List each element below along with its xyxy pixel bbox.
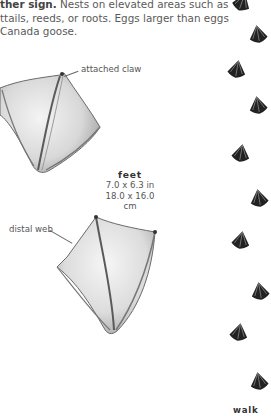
paragraph-line-3: Canada goose. xyxy=(0,25,210,39)
walk-label: walk xyxy=(233,405,259,415)
feet-caption: feet 7.0 x 6.3 in 18.0 x 16.0 cm xyxy=(100,169,160,212)
paragraph-line-2: ttails, reeds, or roots. Eggs larger tha… xyxy=(0,12,210,26)
footprint-track-icon xyxy=(229,228,252,251)
footprint-track-icon xyxy=(247,369,270,392)
feet-title: feet xyxy=(100,169,160,180)
footprint-track-icon xyxy=(248,279,271,302)
paragraph-line-1: ther sign. Nests on elevated areas such … xyxy=(0,0,210,12)
foot-illustration-lower xyxy=(52,212,167,337)
footprint-track-icon xyxy=(229,0,255,15)
footprint-track-icon xyxy=(247,186,270,209)
footprint-track-icon xyxy=(246,93,269,116)
other-sign-heading: ther sign. xyxy=(0,0,57,10)
distal-web-label: distal web xyxy=(9,224,53,234)
footprint-track-icon xyxy=(246,22,269,45)
foot-illustration-upper xyxy=(0,70,110,175)
footprint-track-icon xyxy=(227,320,250,343)
feet-size-metric: 18.0 x 16.0 cm xyxy=(100,191,160,212)
footprint-track-icon xyxy=(225,57,248,80)
habitat-paragraph: ther sign. Nests on elevated areas such … xyxy=(0,0,210,39)
attached-claw-label: attached claw xyxy=(81,64,141,74)
footprint-track-icon xyxy=(229,141,252,164)
feet-size-imperial: 7.0 x 6.3 in xyxy=(100,180,160,191)
